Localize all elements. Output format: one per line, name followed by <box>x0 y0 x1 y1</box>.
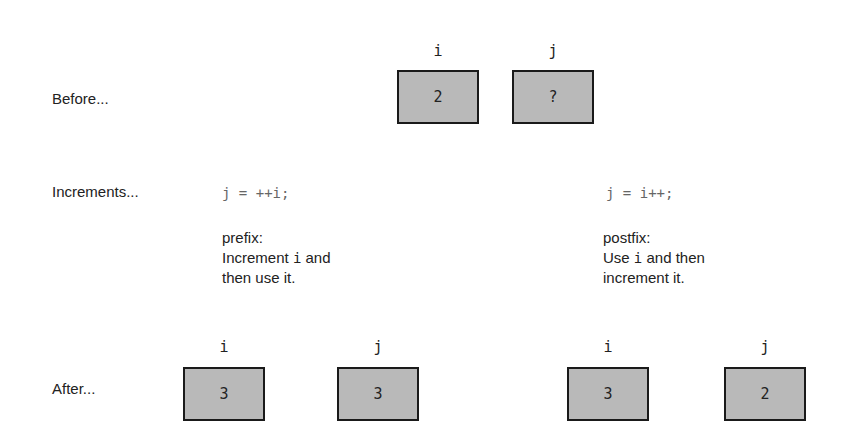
postfix-after-i-box: 3 <box>567 367 649 421</box>
prefix-line1-pre: Increment <box>222 249 293 266</box>
prefix-after-j-box: 3 <box>337 367 419 421</box>
before-j-box: ? <box>512 70 594 124</box>
row-label-before: Before... <box>52 90 109 107</box>
postfix-after-j-box: 2 <box>724 367 806 421</box>
before-i-value: 2 <box>433 88 442 106</box>
prefix-description: prefix: Increment i and then use it. <box>222 228 331 288</box>
row-label-after: After... <box>52 380 95 397</box>
postfix-after-i-value: 3 <box>603 385 612 403</box>
postfix-line1: Use i and then <box>603 248 705 268</box>
postfix-after-i-name: i <box>567 338 649 356</box>
prefix-after-i-box: 3 <box>183 367 265 421</box>
prefix-after-j-value: 3 <box>373 385 382 403</box>
before-j-name: j <box>512 42 594 60</box>
prefix-after-i-value: 3 <box>219 385 228 403</box>
prefix-line2: then use it. <box>222 268 331 288</box>
row-label-increments: Increments... <box>52 183 139 200</box>
before-i-name: i <box>397 42 479 60</box>
postfix-line1-post: and then <box>642 249 705 266</box>
postfix-after-j-value: 2 <box>760 385 769 403</box>
postfix-line1-pre: Use <box>603 249 634 266</box>
prefix-after-i-name: i <box>183 338 265 356</box>
prefix-code: j = ++i; <box>222 185 289 201</box>
prefix-line1: Increment i and <box>222 248 331 268</box>
before-j-value: ? <box>548 88 557 106</box>
postfix-after-j-name: j <box>724 338 806 356</box>
postfix-line2: increment it. <box>603 268 705 288</box>
prefix-title: prefix: <box>222 228 331 248</box>
postfix-title: postfix: <box>603 228 705 248</box>
prefix-line1-post: and <box>301 249 330 266</box>
before-i-box: 2 <box>397 70 479 124</box>
postfix-code: j = i++; <box>606 185 673 201</box>
postfix-description: postfix: Use i and then increment it. <box>603 228 705 288</box>
prefix-after-j-name: j <box>337 338 419 356</box>
